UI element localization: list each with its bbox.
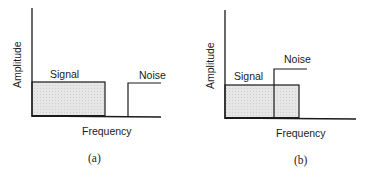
signal-noise-diagram: Amplitude Signal Noise Frequency (a) Amp… xyxy=(0,0,366,181)
noise-label-b: Noise xyxy=(284,53,311,65)
signal-label-b: Signal xyxy=(234,70,263,82)
signal-band-b xyxy=(225,85,299,118)
x-axis-label-a: Frequency xyxy=(82,125,132,137)
signal-label-a: Signal xyxy=(50,68,79,80)
caption-a: (a) xyxy=(88,152,101,165)
y-axis-label-b: Amplitude xyxy=(204,42,216,89)
panel-b: Amplitude Signal Noise Frequency (b) xyxy=(204,10,356,167)
noise-label-a: Noise xyxy=(139,69,166,81)
caption-b: (b) xyxy=(294,154,308,167)
signal-band-a xyxy=(32,82,105,116)
x-axis-label-b: Frequency xyxy=(276,127,326,139)
noise-band-a xyxy=(128,83,161,117)
panel-a: Amplitude Signal Noise Frequency (a) xyxy=(11,8,166,165)
y-axis-label-a: Amplitude xyxy=(11,41,23,88)
